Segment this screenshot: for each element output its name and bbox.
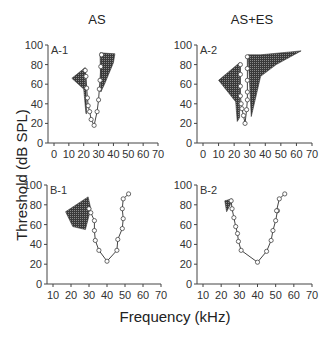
data-point [115,248,119,252]
data-point [116,237,120,241]
y-tick-label: 80 [30,199,42,211]
data-point [245,55,249,59]
x-tick-label: 60 [288,289,300,301]
x-tick-label: 50 [275,148,287,160]
data-point [241,113,245,117]
x-tick-label: 40 [107,148,119,160]
tuning-curve-line [231,194,285,262]
x-tick-label: 30 [83,289,95,301]
data-point [274,219,278,223]
data-point [121,217,125,221]
x-tick-label: 40 [101,289,113,301]
data-point [85,96,89,100]
data-point [99,64,103,68]
shaded-region-inhibitory-high [248,51,301,117]
data-point [97,248,101,252]
panel-label: B-2 [200,184,217,196]
data-point [271,228,275,232]
x-tick-label: 0 [51,148,57,160]
data-point [234,224,238,228]
y-tick-label: 0 [186,137,192,149]
data-point [96,98,100,102]
y-tick-label: 40 [180,98,192,110]
panel-a-2: 020406080100010203040506070A-2 [174,39,318,160]
data-point [230,207,234,211]
shaded-region-inhibitory-low [66,197,91,230]
data-point [235,231,239,235]
data-point [238,84,242,88]
y-tick-label: 100 [25,39,43,51]
data-point [229,199,233,203]
data-point [92,228,96,232]
column-title-as: AS [88,12,106,27]
data-point [238,72,242,76]
data-point [232,216,236,220]
y-tick-label: 100 [174,39,192,51]
panel-label: A-2 [200,44,217,56]
x-tick-label: 60 [137,148,149,160]
data-point [255,260,259,264]
data-point [99,53,103,57]
data-point [245,66,249,70]
x-tick-label: 70 [306,289,318,301]
data-point [238,63,242,67]
y-tick-label: 0 [186,278,192,290]
data-point [84,74,88,78]
figure: AS AS+ES Threshold (dB SPL) Frequency (k… [0,0,331,337]
panel-b-1: 02040608010010203040506070B-1 [24,179,167,301]
y-tick-label: 20 [180,117,192,129]
x-tick-label: 70 [155,289,167,301]
data-point [245,78,249,82]
x-tick-label: 20 [215,289,227,301]
y-tick-label: 60 [30,219,42,231]
y-tick-label: 60 [31,78,43,90]
data-point [120,226,124,230]
x-tick-label: 30 [244,148,256,160]
data-point [92,123,96,127]
y-tick-label: 40 [31,98,43,110]
data-point [277,197,281,201]
x-tick-label: 70 [306,148,318,160]
panel-b-2: 02040608010010203040506070B-2 [174,179,318,301]
x-tick-label: 20 [65,289,77,301]
x-tick-label: 0 [200,148,206,160]
y-tick-label: 60 [180,78,192,90]
y-tick-label: 80 [31,59,43,71]
x-tick-label: 30 [92,148,104,160]
y-tick-label: 0 [37,137,43,149]
x-axis-title: Frequency (kHz) [120,308,231,325]
y-tick-label: 20 [30,258,42,270]
panel-label: B-1 [50,184,67,196]
x-tick-label: 30 [233,289,245,301]
x-tick-label: 60 [137,289,149,301]
x-tick-label: 70 [152,148,164,160]
y-tick-label: 40 [30,238,42,250]
data-point [243,121,247,125]
data-point [274,209,278,213]
x-tick-label: 50 [119,289,131,301]
data-point [89,117,93,121]
shaded-region-inhibitory-high [100,53,115,92]
x-tick-label: 10 [197,289,209,301]
data-point [283,192,287,196]
y-tick-label: 100 [24,179,42,191]
y-tick-label: 40 [180,238,192,250]
data-point [86,104,90,108]
data-point [83,68,87,72]
y-tick-label: 80 [180,199,192,211]
data-point [240,107,244,111]
data-point [92,219,96,223]
data-point [121,197,125,201]
data-point [245,98,249,102]
data-point [98,78,102,82]
data-point [239,102,243,106]
x-tick-label: 50 [270,289,282,301]
data-point [120,207,124,211]
data-point [87,207,91,211]
shaded-region-inhibitory-low [219,63,240,122]
column-title-as-es: AS+ES [231,12,274,27]
y-tick-label: 20 [180,258,192,270]
x-tick-label: 20 [78,148,90,160]
data-point [88,110,92,114]
x-tick-label: 40 [259,148,271,160]
